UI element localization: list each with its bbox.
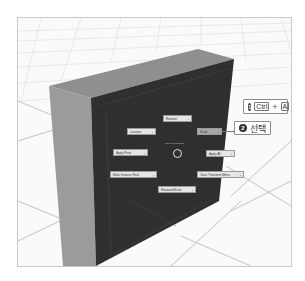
pie-menu-center-circle: [173, 149, 182, 158]
plus-sign: +: [272, 102, 277, 112]
chevron-right-icon: ›: [144, 150, 145, 157]
pie-menu-title: Object Transform: [165, 142, 184, 145]
pie-item-rotation-scale[interactable]: Rotation&Scale›: [158, 186, 196, 193]
callout-connector-line: [222, 131, 234, 132]
step-number-badge: 2: [239, 124, 247, 132]
callout-step-1: 1 Ctrl + A: [243, 99, 288, 114]
box-left-face: [49, 86, 96, 266]
pie-item-label: Rotation&Scale: [161, 188, 182, 192]
chevron-right-icon: ›: [231, 151, 232, 158]
pie-item-clear-transform-menu[interactable]: Clear Transform Menu›: [197, 171, 244, 178]
pie-item-label: Apply All: [209, 152, 221, 156]
chevron-right-icon: ›: [218, 129, 219, 136]
chevron-right-icon: ›: [188, 116, 189, 123]
pie-item-location[interactable]: Location›: [127, 128, 156, 135]
pie-item-apply-all[interactable]: Apply All›: [206, 150, 235, 157]
3d-viewport-scene: [18, 18, 291, 266]
chevron-right-icon: ›: [153, 172, 154, 179]
key-ctrl: Ctrl: [254, 102, 269, 111]
pie-item-label: Scale: [200, 130, 208, 134]
pie-item-rotation[interactable]: Rotation›: [163, 115, 192, 122]
pie-item-label: Location: [130, 130, 141, 134]
pie-item-label: Rotation: [166, 117, 177, 121]
pie-item-scale[interactable]: Scale›: [197, 128, 222, 135]
step-number-badge: 1: [248, 103, 251, 111]
chevron-right-icon: ›: [192, 187, 193, 194]
pie-item-label: Clear Transform Menu: [200, 173, 230, 177]
key-a: A: [281, 102, 290, 111]
step-instruction-text: 선택: [250, 122, 266, 135]
viewport-frame[interactable]: Object Transform Rotation› Location› Sca…: [17, 17, 292, 267]
chevron-right-icon: ›: [152, 129, 153, 136]
pie-item-bake-instance-real[interactable]: Bake Instance Real›: [110, 171, 157, 178]
callout-step-2: 2 선택: [234, 121, 271, 135]
chevron-right-icon: ›: [240, 172, 241, 179]
pie-item-apply-pivot[interactable]: Apply Pivot›: [113, 149, 148, 156]
pie-item-label: Bake Instance Real: [113, 173, 139, 177]
pie-item-label: Apply Pivot: [116, 151, 131, 155]
